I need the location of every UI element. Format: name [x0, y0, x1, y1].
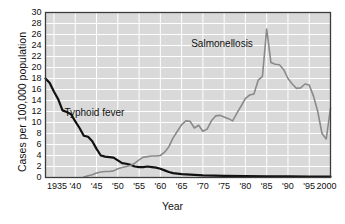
- x-tick-label: '40: [69, 182, 81, 191]
- x-tick-label: 1935: [47, 182, 67, 191]
- y-tick-label: 24: [20, 41, 42, 50]
- x-tick-label: '95: [303, 182, 315, 191]
- x-tick-label: '50: [112, 182, 124, 191]
- x-tick-label: '65: [176, 182, 188, 191]
- x-tick-label: '70: [197, 182, 209, 191]
- y-tick-label: 10: [20, 118, 42, 127]
- series-label: Salmonellosis: [191, 38, 253, 49]
- x-tick-label: '60: [154, 182, 166, 191]
- x-tick-label: '45: [91, 182, 103, 191]
- x-tick-label: '90: [282, 182, 294, 191]
- y-tick-label: 26: [20, 30, 42, 39]
- y-tick-label: 28: [20, 19, 42, 28]
- x-tick-label: '85: [261, 182, 273, 191]
- y-tick-label: 4: [20, 151, 42, 160]
- y-tick-label: 22: [20, 52, 42, 61]
- x-tick-label: '80: [240, 182, 252, 191]
- x-axis-title: Year: [0, 200, 345, 212]
- y-tick-label: 14: [20, 96, 42, 105]
- y-tick-label: 2: [20, 162, 42, 171]
- y-tick-label: 16: [20, 85, 42, 94]
- x-tick-label: 2000: [316, 182, 336, 191]
- x-tick-label: '75: [218, 182, 230, 191]
- y-tick-label: 12: [20, 107, 42, 116]
- y-tick-label: 30: [20, 8, 42, 17]
- x-tick-label: '55: [133, 182, 145, 191]
- y-tick-label: 0: [20, 173, 42, 182]
- y-tick-label: 6: [20, 140, 42, 149]
- y-tick-label: 8: [20, 129, 42, 138]
- y-tick-label: 20: [20, 63, 42, 72]
- chart-figure: Cases per 100,000 population Year 024681…: [0, 0, 345, 224]
- series-label: Typhoid fever: [64, 107, 124, 118]
- y-tick-label: 18: [20, 74, 42, 83]
